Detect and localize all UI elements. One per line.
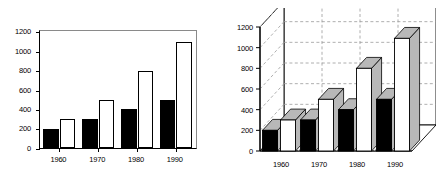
bar-3d-side [410, 27, 420, 151]
bar-2d [60, 119, 76, 148]
plot-area-2d [39, 30, 197, 149]
bar-3d-front [263, 130, 278, 151]
y-axis-label-3d: 600 [218, 85, 253, 94]
y-axis-label-2d: 1000 [0, 47, 31, 56]
x-axis-label-2d: 1980 [116, 155, 156, 164]
x-axis-label-3d: 1980 [337, 160, 377, 169]
bar-2d [160, 100, 176, 148]
x-axis-label-3d: 1990 [375, 160, 415, 169]
y-tick-2d [36, 71, 40, 72]
plot-area-3d [234, 8, 436, 178]
y-axis-label-3d: 200 [218, 126, 253, 135]
bar-3d-front [301, 120, 316, 151]
x-tick-2d [137, 148, 138, 152]
figure-root: 0200400600800100012001960197019801990 02… [0, 0, 436, 183]
y-axis-label-3d: 1000 [218, 44, 253, 53]
y-tick-2d [36, 32, 40, 33]
y-tick-2d [36, 52, 40, 53]
chart-3d: 0200400600800100012001960197019801990 [218, 0, 436, 183]
bar-2d [82, 119, 98, 148]
y-tick-2d [36, 149, 40, 150]
bar-2d [176, 42, 192, 148]
y-axis-label-2d: 400 [0, 105, 31, 114]
chart-3d-svg [234, 8, 436, 178]
x-axis-label-3d: 1960 [261, 160, 301, 169]
bar-3d-front [339, 110, 354, 151]
bar-3d-front [377, 99, 392, 151]
y-axis-label-2d: 1200 [0, 27, 31, 36]
y-axis-label-3d: 800 [218, 64, 253, 73]
y-axis-label-2d: 600 [0, 86, 31, 95]
x-axis-label-2d: 1960 [38, 155, 78, 164]
bar-2d [99, 100, 115, 148]
y-axis-label-3d: 1200 [218, 23, 253, 32]
bar-3d-front [357, 68, 372, 151]
y-tick-2d [36, 110, 40, 111]
x-tick-2d [98, 148, 99, 152]
bar-3d-front [281, 120, 296, 151]
y-tick-2d [36, 91, 40, 92]
y-axis-label-3d: 400 [218, 106, 253, 115]
bar-3d-front [395, 38, 410, 151]
chart-2d: 0200400600800100012001960197019801990 [0, 0, 218, 183]
y-axis-label-2d: 0 [0, 144, 31, 153]
x-axis-label-2d: 1970 [77, 155, 117, 164]
y-axis-label-2d: 800 [0, 66, 31, 75]
y-axis-label-3d: 0 [218, 147, 253, 156]
bar-2d [43, 129, 59, 148]
x-tick-2d [59, 148, 60, 152]
bar-2d [138, 71, 154, 148]
x-axis-label-3d: 1970 [299, 160, 339, 169]
y-axis-label-2d: 200 [0, 124, 31, 133]
x-tick-2d [176, 148, 177, 152]
bar-2d [121, 109, 137, 148]
x-axis-label-2d: 1990 [155, 155, 195, 164]
y-tick-2d [36, 129, 40, 130]
bar-3d-front [319, 99, 334, 151]
